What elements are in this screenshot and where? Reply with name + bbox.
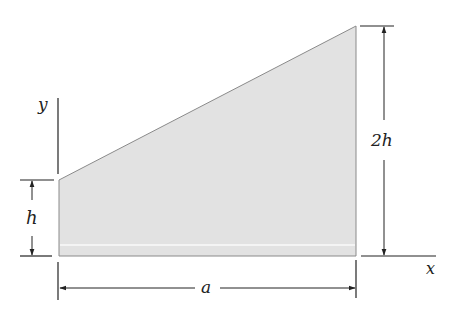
x-axis-label: x (426, 259, 435, 278)
trapezoid-diagram: y x h 2h a (0, 0, 458, 311)
a-dimension-label: a (201, 277, 211, 297)
h-dimension-label: h (26, 207, 38, 228)
y-axis-label: y (37, 94, 48, 114)
shaded-area (59, 26, 356, 256)
2h-dimension-label: 2h (370, 130, 393, 150)
